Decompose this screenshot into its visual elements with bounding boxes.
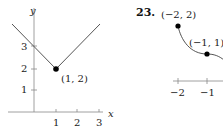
x-tick-label-1: 1: [53, 117, 59, 128]
y-axis-label: y: [29, 5, 36, 16]
left-chart: y x 1 2 3 1 2 3 (1, 2): [8, 5, 114, 128]
point2-label: (−1, 1): [189, 37, 223, 48]
x-tick-label-neg1: −1: [200, 87, 215, 98]
vertex-point: [53, 66, 59, 72]
x-tick-label-neg2: −2: [170, 87, 185, 98]
x-axis-label: x: [108, 108, 114, 119]
x-tick-label-3: 3: [96, 117, 102, 128]
point1-label: (−2, 2): [161, 9, 196, 20]
figure: y x 1 2 3 1 2 3 (1, 2) 23. (−2, 2) (−1, …: [0, 0, 223, 134]
right-chart: 23. (−2, 2) (−1, 1) −2 −1: [136, 6, 223, 98]
y-tick-label-1: 1: [21, 84, 27, 95]
problem-number: 23.: [136, 6, 155, 19]
y-tick-label-2: 2: [21, 63, 27, 74]
point-neg2-2: [175, 23, 180, 28]
y-tick-label-3: 3: [21, 41, 27, 52]
x-tick-label-2: 2: [74, 117, 80, 128]
point-label: (1, 2): [61, 73, 88, 84]
point-neg1-1: [204, 51, 209, 56]
